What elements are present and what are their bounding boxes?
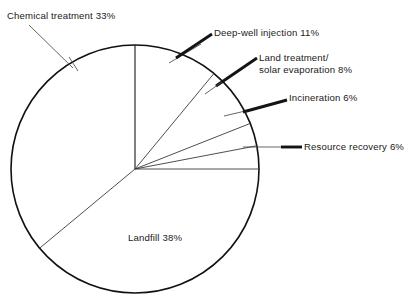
leader-thin-land-treatment [205,82,222,94]
pie-spoke-landfill-chemicaltreatment [40,169,135,248]
pie-chart-figure: Chemical treatment 33% Deep-well injecti… [0,0,415,306]
slice-label-chemical-treatment: Chemical treatment 33% [7,10,115,22]
pie-spoke-deepwell-landtreatment [135,73,214,169]
slice-label-resource-recovery: Resource recovery 6% [304,141,404,153]
slice-label-land-treatment-line2: solar evaporation 8% [259,64,352,76]
leader-land-treatment [216,58,257,86]
leader-incineration [243,100,287,112]
pie-spoke-incineration-resourcerecovery [135,146,257,169]
slice-label-incineration: Incineration 6% [289,92,357,104]
leader-deep-well-injection [176,34,212,58]
slice-label-land-treatment-line1: Land treatment/ [259,52,352,64]
slice-label-landfill: Landfill 38% [128,232,182,244]
slice-label-deep-well-injection: Deep-well injection 11% [214,27,319,39]
leader-chemical-treatment [29,25,73,68]
pie-spoke-landtreatment-incineration [135,123,250,169]
slice-label-land-treatment: Land treatment/ solar evaporation 8% [259,52,352,76]
